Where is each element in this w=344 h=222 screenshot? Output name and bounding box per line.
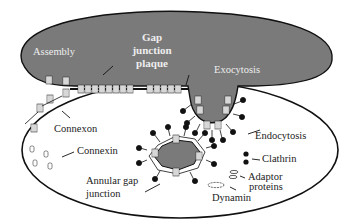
label-plaque-line2: junction — [124, 44, 180, 56]
label-dynamin: Dynamin — [212, 192, 251, 204]
label-endocytosis: Endocytosis — [255, 130, 306, 142]
label-plaque-line1: Gap — [124, 31, 180, 43]
label-connexon: Connexon — [54, 123, 97, 135]
label-annular-line2: junction — [86, 188, 120, 200]
label-clathrin: Clathrin — [262, 153, 296, 165]
label-exocytosis: Exocytosis — [214, 64, 260, 76]
gap-junction-diagram: Assembly Gap junction plaque Exocytosis … — [0, 0, 344, 222]
plaque-channels — [78, 85, 181, 93]
label-connexin: Connexin — [77, 145, 118, 157]
label-assembly: Assembly — [33, 46, 75, 58]
label-plaque-line3: plaque — [124, 57, 180, 69]
label-adaptor-line2: proteins — [249, 181, 283, 193]
label-annular-line1: Annular gap — [86, 175, 138, 187]
